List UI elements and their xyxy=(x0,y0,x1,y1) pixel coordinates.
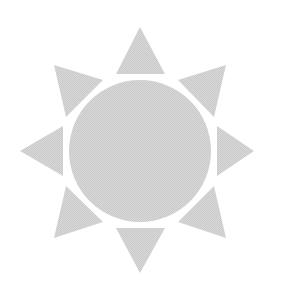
icon-canvas: Sun North rayNortheast rayEast raySouthe… xyxy=(0,0,282,306)
sun-icon: Sun North rayNortheast rayEast raySouthe… xyxy=(0,0,282,306)
sun-core-disc xyxy=(69,80,211,222)
